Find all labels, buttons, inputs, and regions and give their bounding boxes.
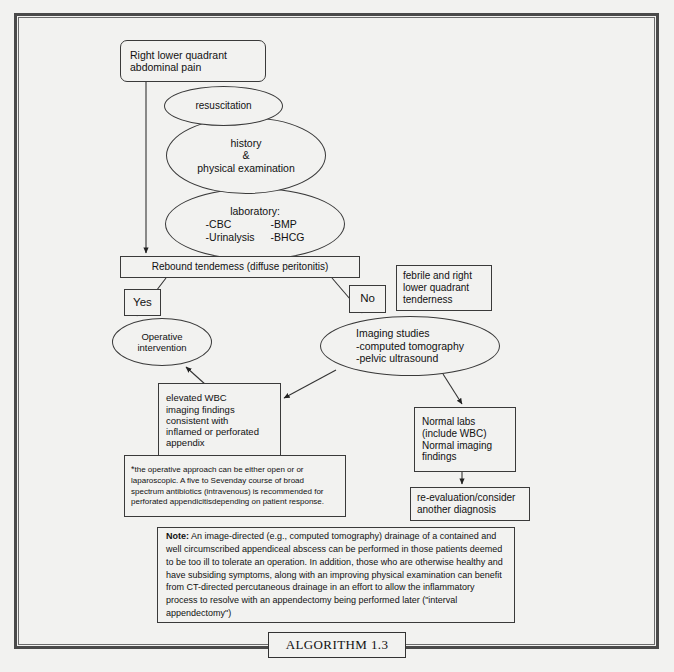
node-imaging-lines: Imaging studies -computed tomography -pe… (356, 327, 464, 364)
branch-label-no: No (349, 285, 386, 313)
node-operative-intervention: Operative intervention (112, 318, 212, 366)
node-chief-complaint-line-2: abdominal pain (130, 61, 256, 73)
node-imaging-line-3: -pelvic ultrasound (356, 352, 464, 364)
node-laboratory-item-bmp: -BMP (271, 218, 305, 230)
note-text: An image-directed (e.g., computed tomogr… (166, 531, 503, 618)
node-elevated-line-4: inflamed or perforated (166, 426, 273, 437)
node-operative-line-2: intervention (137, 342, 186, 353)
node-normal-line-3: Normal imaging (422, 440, 508, 452)
algorithm-caption-text: ALGORITHM 1.3 (286, 637, 389, 653)
node-laboratory-item-bhcg: -BHCG (271, 231, 305, 243)
node-febrile-line-1: febrile and right (403, 270, 485, 282)
node-imaging-line-1: Imaging studies (356, 327, 464, 339)
node-febrile-line-3: tenderness (403, 294, 485, 306)
node-resuscitation-label: resuscitation (195, 100, 251, 112)
node-resuscitation: resuscitation (164, 86, 283, 126)
note-body: Note: An image-directed (e.g., computed … (166, 530, 506, 619)
branch-label-yes: Yes (124, 289, 161, 316)
node-reevaluation-line-2: another diagnosis (417, 504, 523, 516)
node-laboratory-item-cbc: -CBC (206, 218, 255, 230)
node-imaging-studies: Imaging studies -computed tomography -pe… (320, 316, 500, 376)
node-elevated-line-3: consistent with (166, 415, 273, 426)
node-elevated-line-5: appendix (166, 437, 273, 448)
footnote-body: *the operative approach can be either op… (131, 465, 339, 507)
node-rebound-label: Rebound tendemess (diffuse peritonitis) (152, 261, 329, 273)
node-history-line-2: & (242, 149, 249, 161)
node-febrile-rlq-tenderness: febrile and right lower quadrant tendern… (396, 265, 492, 311)
node-laboratory: laboratory: -CBC -BMP -Urinalysis -BHCG (165, 188, 345, 260)
node-reevaluation: re-evaluation/consider another diagnosis (410, 487, 530, 521)
node-operative-line-1: Operative (141, 331, 182, 342)
node-normal-line-4: findings (422, 451, 508, 463)
footnote-text: the operative approach can be either ope… (131, 465, 324, 506)
node-normal-line-1: Normal labs (422, 416, 508, 428)
note-box-interval-appendectomy: Note: An image-directed (e.g., computed … (157, 527, 515, 623)
branch-label-no-text: No (360, 292, 375, 306)
node-history-physical: history & physical examination (166, 117, 326, 194)
node-elevated-wbc-findings: elevated WBC imaging findings consistent… (158, 383, 281, 458)
node-elevated-line-1: elevated WBC (166, 392, 273, 403)
node-febrile-line-2: lower quadrant (403, 282, 485, 294)
node-laboratory-item-urinalysis: -Urinalysis (206, 231, 255, 243)
node-chief-complaint-line-1: Right lower quadrant (130, 49, 256, 61)
node-normal-labs-imaging: Normal labs (include WBC) Normal imaging… (414, 407, 516, 472)
node-reevaluation-line-1: re-evaluation/consider (417, 492, 523, 504)
node-imaging-line-2: -computed tomography (356, 340, 464, 352)
algorithm-caption: ALGORITHM 1.3 (268, 632, 406, 658)
node-history-line-3: physical examination (197, 162, 294, 174)
node-laboratory-items: -CBC -BMP -Urinalysis -BHCG (206, 218, 305, 243)
footnote-marker: * (131, 464, 135, 474)
note-label: Note: (166, 531, 189, 541)
node-rebound-tenderness: Rebound tendemess (diffuse peritonitis) (120, 256, 360, 278)
node-history-line-1: history (231, 137, 262, 149)
node-chief-complaint: Right lower quadrant abdominal pain (120, 40, 266, 82)
node-normal-line-2: (include WBC) (422, 428, 508, 440)
figure-page: Right lower quadrant abdominal pain resu… (0, 0, 674, 672)
footnote-operative-approach: *the operative approach can be either op… (124, 455, 346, 517)
node-laboratory-title: laboratory: (230, 205, 280, 217)
node-elevated-line-2: imaging findings (166, 404, 273, 415)
branch-label-yes-text: Yes (133, 296, 152, 310)
